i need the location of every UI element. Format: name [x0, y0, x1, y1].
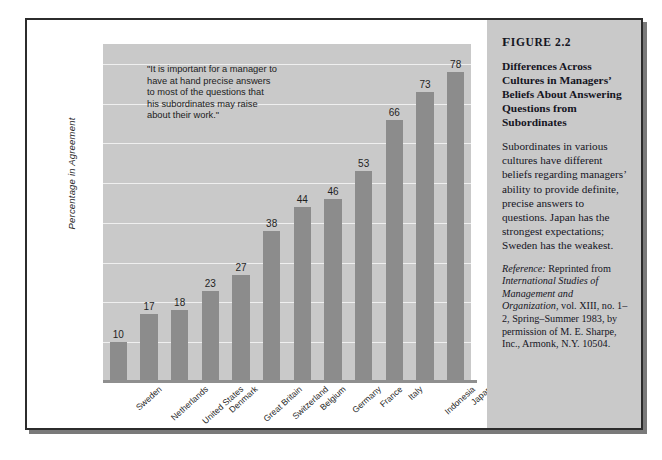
x-tick-label: Germany: [350, 384, 383, 415]
bar: [171, 310, 188, 382]
figure-reference: Reference: Reprinted from International …: [502, 263, 628, 351]
bar: [386, 120, 403, 382]
bar: [447, 72, 464, 382]
bar-slot: 78: [447, 44, 464, 382]
bar-value-label: 73: [419, 79, 430, 90]
figure-page: Percentage in Agreement 1020304050607080…: [0, 0, 662, 460]
bar: [355, 171, 372, 382]
bar-slot: 27: [232, 44, 249, 382]
bar-slot: 46: [324, 44, 341, 382]
bar-value-label: 66: [389, 107, 400, 118]
figure-caption-panel: FIGURE 2.2 Differences Across Cultures i…: [487, 20, 641, 428]
bar-value-label: 10: [113, 329, 124, 340]
x-tick-label: Italy: [406, 384, 424, 402]
bar-slot: 38: [263, 44, 280, 382]
bar: [294, 207, 311, 382]
bar-slot: 10: [110, 44, 127, 382]
x-tick-label: France: [378, 384, 405, 409]
figure-body: Subordinates in various cultures have di…: [502, 139, 628, 253]
bar-slot: 73: [416, 44, 433, 382]
figure-number: FIGURE 2.2: [502, 34, 628, 50]
x-tick-label: Sweden: [134, 384, 164, 412]
figure-number-initial: F: [502, 34, 511, 49]
bar-value-label: 18: [174, 297, 185, 308]
bar-value-label: 23: [205, 278, 216, 289]
bar: [324, 199, 341, 382]
bar: [263, 231, 280, 382]
bar-slot: 66: [386, 44, 403, 382]
bar-slot: 44: [294, 44, 311, 382]
bar-value-label: 17: [143, 301, 154, 312]
bar-value-label: 46: [327, 186, 338, 197]
bar: [416, 92, 433, 382]
plot-area: "It is important for a manager tohave at…: [103, 44, 471, 382]
bar-slot: 53: [355, 44, 372, 382]
bar-slot: 17: [140, 44, 157, 382]
bar: [202, 291, 219, 382]
bar-value-label: 27: [235, 262, 246, 273]
bar-value-label: 44: [297, 194, 308, 205]
y-axis-title: Percentage in Agreement: [66, 94, 77, 254]
bar-slot: 18: [171, 44, 188, 382]
reference-label: Reference:: [502, 263, 546, 274]
figure-title: Differences Across Cultures in Managers’…: [502, 59, 628, 129]
chart-pane: Percentage in Agreement 1020304050607080…: [27, 20, 487, 428]
bar: [110, 342, 127, 382]
bar: [232, 275, 249, 382]
x-axis-baseline: [103, 380, 477, 383]
bar-value-label: 53: [358, 158, 369, 169]
bar-value-label: 38: [266, 218, 277, 229]
reference-text-1: Reprinted from: [546, 263, 611, 274]
bar-value-label: 78: [450, 59, 461, 70]
bar-slot: 23: [202, 44, 219, 382]
figure-number-rest: IGURE 2.2: [511, 36, 571, 48]
x-axis-labels: SwedenNetherlandsUnited StatesDenmarkGre…: [103, 384, 483, 460]
bar-series: 101718232738444653667378: [103, 44, 471, 382]
bar: [140, 314, 157, 382]
